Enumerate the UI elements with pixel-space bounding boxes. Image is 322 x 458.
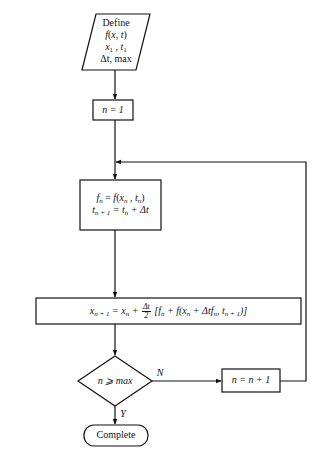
decision-label: n ⩾ max: [85, 375, 145, 387]
decision-yes-label: Y: [118, 408, 128, 420]
eval-line-1: fn = f(xn , tn): [80, 192, 161, 204]
update-label: xn + 1 = xn + Δt2 [fn + f(xn + Δtfn, tn …: [36, 303, 301, 320]
input-define-text: Define: [86, 17, 146, 29]
input-step-text: Δt, max: [86, 53, 146, 65]
eval-line-2: tn + 1 = tn + Δt: [80, 204, 161, 216]
flowchart-canvas: [0, 0, 322, 458]
input-initial-text: x1 , t1: [86, 41, 146, 53]
increment-label: n = n + 1: [222, 374, 280, 386]
decision-no-label: N: [155, 367, 165, 379]
input-function-text: f(x, t): [86, 29, 146, 41]
end-label: Complete: [84, 429, 148, 441]
eval-label: fn = f(xn , tn) tn + 1 = tn + Δt: [80, 192, 161, 216]
input-label: Define f(x, t) x1 , t1 Δt, max: [86, 17, 146, 65]
init-label: n = 1: [93, 104, 133, 116]
update-fraction: Δt2: [142, 303, 151, 320]
